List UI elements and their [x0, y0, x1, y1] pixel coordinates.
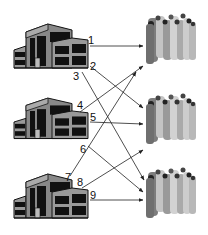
edge-label-7: 7: [65, 171, 71, 183]
crowd-2-icon: [146, 94, 196, 145]
edge-label-5: 5: [90, 111, 96, 123]
edge-label-2: 2: [90, 60, 96, 72]
edge-label-9: 9: [90, 189, 96, 201]
crowd-1-icon: [146, 14, 196, 65]
transport-diagram: 1 2 3 4 5 6 7 8 9: [0, 0, 208, 235]
edge-label-3: 3: [73, 70, 79, 82]
edge-label-8: 8: [77, 176, 83, 188]
edge-6: [88, 146, 143, 192]
edge-5: [90, 122, 143, 124]
edge-4: [80, 66, 143, 112]
building-1-icon: [14, 24, 88, 68]
edge-label-6: 6: [80, 143, 86, 155]
edge-8: [82, 150, 143, 188]
edge-label-1: 1: [88, 34, 94, 46]
crowd-3-icon: [146, 168, 196, 219]
edge-label-4: 4: [77, 99, 83, 111]
